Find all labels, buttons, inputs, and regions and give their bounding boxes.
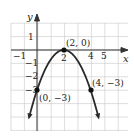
y-axis-arrow-icon (35, 14, 40, 21)
x-axis-arrow-icon (121, 48, 128, 53)
y-tick-neg1: −1 (25, 58, 38, 68)
point-symmetric (88, 87, 93, 92)
label-symmetric: (4, −3) (92, 78, 124, 88)
x-tick-neg1: −1 (13, 51, 26, 61)
x-tick-4: 4 (88, 51, 94, 61)
y-axis-label: y (26, 11, 33, 22)
curve-arrow-right-icon (95, 113, 100, 119)
label-vertex: (2, 0) (66, 38, 90, 48)
label-y-intercept: (0, −3) (39, 93, 71, 103)
y-tick-neg2: −2 (25, 71, 38, 81)
point-y-intercept (34, 87, 39, 92)
y-tick-1: 1 (28, 32, 34, 42)
parabola-graph: y x 1 −1 −2 −3 −1 2 4 5 (2, 0) (0, −3) (… (0, 0, 134, 139)
curve-arrow-left-icon (28, 113, 33, 119)
point-vertex (61, 47, 66, 52)
x-tick-2: 2 (61, 53, 67, 63)
x-tick-5: 5 (101, 51, 107, 61)
x-axis-label: x (123, 53, 129, 64)
